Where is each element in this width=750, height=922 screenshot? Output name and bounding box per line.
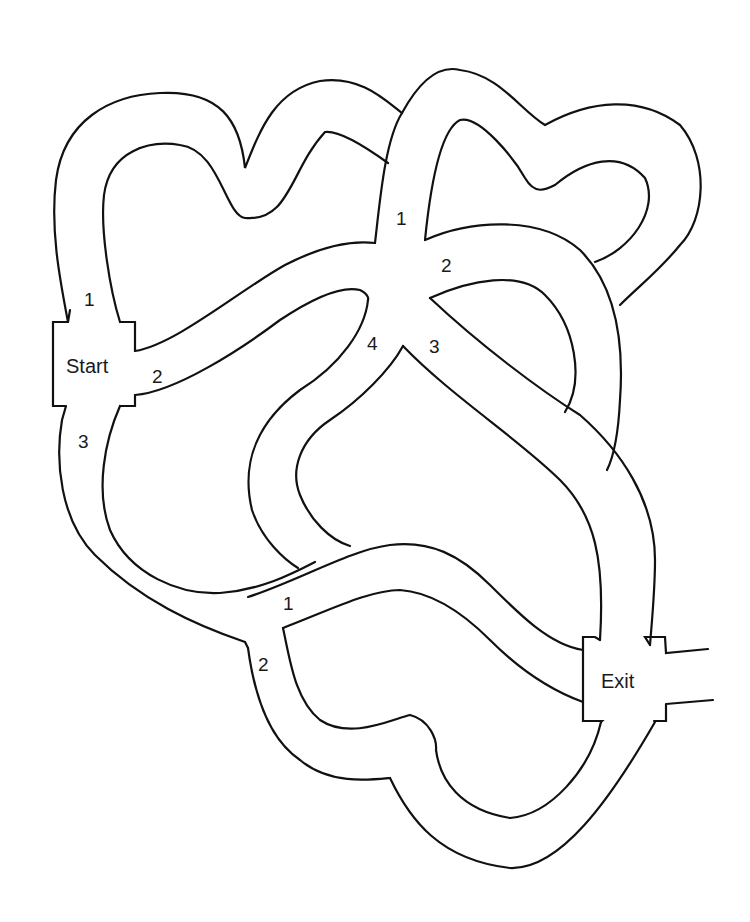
center-branch-1-label: 1	[396, 209, 407, 228]
path-wall	[430, 298, 655, 645]
start-branch-1-label: 1	[84, 290, 95, 309]
path-wall	[59, 420, 248, 648]
path-wall	[103, 406, 315, 593]
path-wall	[430, 280, 575, 412]
path-wall	[375, 69, 701, 305]
path-wall	[248, 648, 655, 868]
start-label: Start	[66, 356, 108, 376]
path-wall	[249, 300, 368, 568]
path-wall	[54, 80, 402, 322]
path-wall	[135, 242, 375, 351]
start-branch-3-label: 3	[78, 432, 89, 451]
maze-diagram	[0, 0, 750, 922]
center-branch-4-label: 4	[367, 334, 378, 353]
lower-branch-1-label: 1	[283, 594, 294, 613]
path-wall	[135, 289, 368, 395]
path-wall	[425, 224, 621, 470]
lower-branch-2-label: 2	[258, 655, 269, 674]
path-wall	[283, 628, 601, 818]
center-branch-3-label: 3	[429, 337, 440, 356]
path-wall	[296, 346, 403, 546]
center-branch-2-label: 2	[441, 256, 452, 275]
exit-label: Exit	[601, 671, 634, 691]
path-wall	[425, 120, 649, 262]
path-wall	[283, 590, 583, 702]
path-wall	[248, 544, 583, 650]
start-branch-2-label: 2	[152, 367, 163, 386]
path-wall	[103, 132, 388, 322]
